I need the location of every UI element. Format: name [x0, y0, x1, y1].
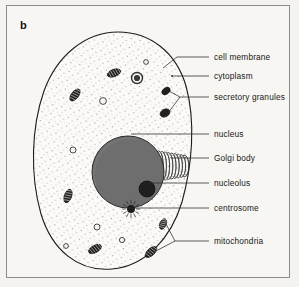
nucleus-organelle [92, 136, 164, 208]
label-nucleolus: nucleolus [214, 179, 250, 188]
label-golgi-body: Golgi body [214, 154, 255, 163]
figure-root: b cell membranecytoplasmsecretory gra [0, 0, 299, 287]
label-secretory-granules: secretory granules [214, 93, 285, 102]
label-cytoplasm: cytoplasm [214, 72, 253, 81]
label-nucleus: nucleus [214, 130, 244, 139]
label-mitochondria: mitochondria [214, 237, 263, 246]
label-cell-membrane: cell membrane [214, 53, 270, 62]
label-centrosome: centrosome [214, 204, 259, 213]
